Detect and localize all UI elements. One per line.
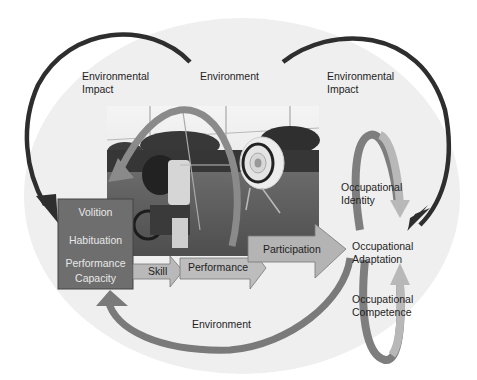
volition-label: Volition [58, 206, 133, 219]
occupational-competence-label: Occupational Competence [352, 293, 413, 319]
environment-top-label: Environment [200, 70, 259, 83]
participation-label: Participation [263, 243, 321, 255]
occupational-adaptation-label: Occupational Adaptation [352, 240, 413, 266]
skill-label: Skill [148, 265, 167, 277]
env-impact-left-label: Environmental Impact [82, 70, 149, 96]
performance-label: Performance [188, 261, 248, 273]
environment-bottom-label: Environment [192, 318, 251, 331]
performance-capacity-label: Performance Capacity [58, 257, 133, 285]
occupational-identity-label: Occupational Identity [341, 181, 402, 207]
env-impact-right-label: Environmental Impact [327, 70, 394, 96]
habituation-label: Habituation [58, 234, 133, 247]
